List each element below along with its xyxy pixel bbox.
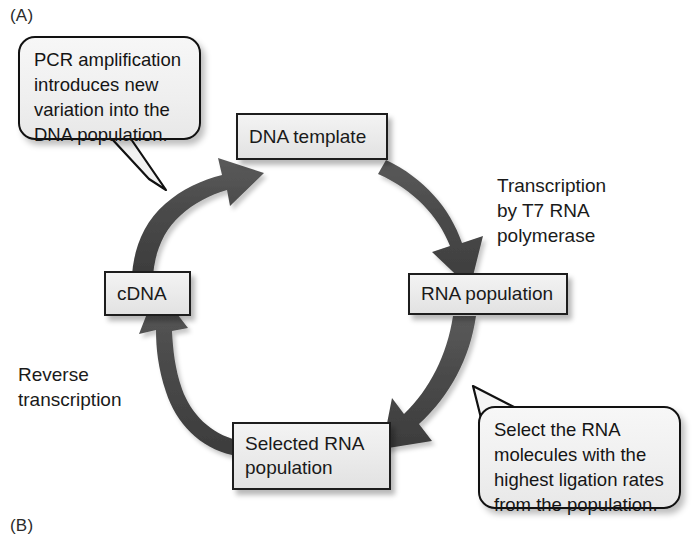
arrow-rna-population-to-selected-rna: [382, 316, 476, 449]
node-selected-rna-population: Selected RNA population: [232, 422, 391, 490]
arrow-cdna-to-dna-template: [132, 158, 264, 276]
edge-label-reverse-transcription: Reverse transcription: [18, 362, 122, 412]
node-dna-template: DNA template: [236, 113, 388, 160]
node-cdna: cDNA: [104, 271, 191, 316]
panel-b-label: (B): [10, 516, 33, 536]
callout-select-rna-molecules: Select the RNA molecules with the highes…: [478, 406, 681, 509]
panel-a-label: (A): [10, 6, 33, 26]
edge-label-transcription: Transcription by T7 RNA polymerase: [497, 173, 606, 248]
figure-panel-a-diagram: (A) (B): [0, 0, 695, 556]
node-rna-population: RNA population: [408, 273, 568, 315]
callout-pcr-amplification: PCR amplification introduces new variati…: [18, 36, 201, 140]
arrow-dna-template-to-rna-population: [378, 160, 483, 288]
